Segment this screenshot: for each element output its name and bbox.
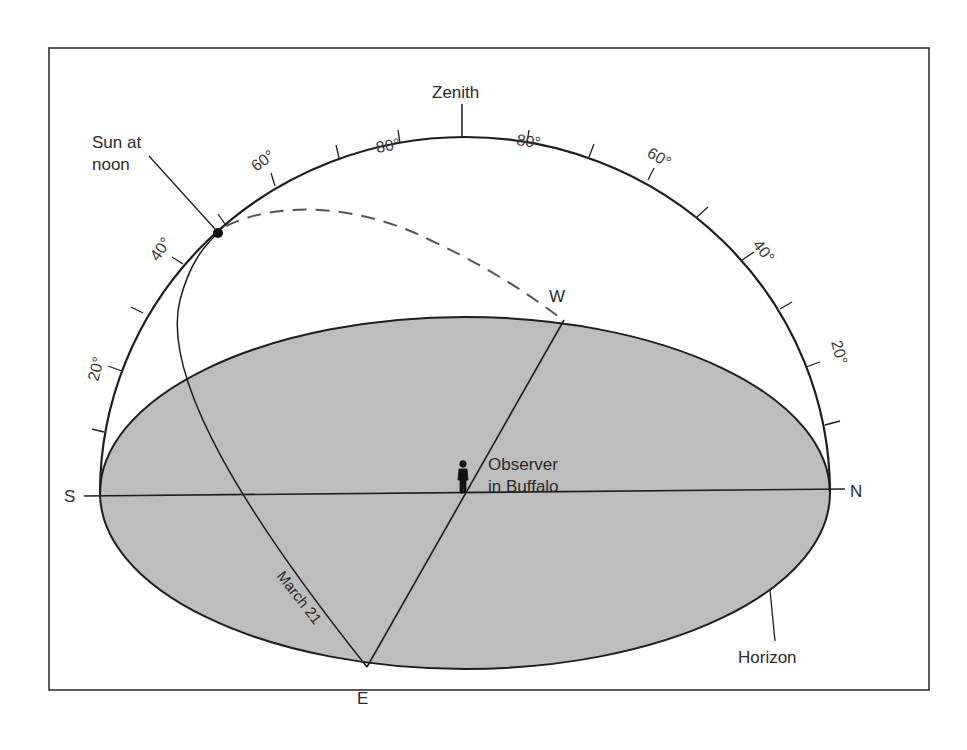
celestial-sphere-diagram: 20° 40° 60° 80° 80° 60° 40° 20° Zenith S…: [0, 0, 967, 750]
degree-label-20-north: 20°: [828, 338, 851, 366]
degree-label-80-south: 80°: [375, 135, 402, 156]
west-label: W: [549, 287, 565, 306]
horizon-label: Horizon: [738, 648, 797, 667]
degree-label-80-north: 80°: [516, 131, 542, 151]
north-label: N: [850, 482, 862, 501]
observer-label-line1: Observer: [488, 455, 558, 474]
degree-label-40-north: 40°: [750, 236, 778, 266]
observer-label-line2: in Buffalo: [488, 477, 559, 496]
sun-path-afternoon-dashed: [226, 210, 563, 320]
sun-at-noon-dot: [213, 228, 223, 238]
east-label: E: [357, 689, 368, 708]
degree-label-60-north: 60°: [645, 144, 674, 171]
sun-at-noon-label-line1: Sun at: [92, 133, 141, 152]
sun-at-noon-label-line2: noon: [92, 155, 130, 174]
south-label: S: [64, 487, 75, 506]
horizon-leader: [770, 590, 775, 641]
degree-label-40-south: 40°: [147, 234, 175, 264]
zenith-label: Zenith: [432, 83, 479, 102]
degree-label-20-south: 20°: [84, 355, 107, 383]
sun-at-noon-leader: [149, 156, 215, 229]
degree-label-60-south: 60°: [248, 147, 278, 175]
